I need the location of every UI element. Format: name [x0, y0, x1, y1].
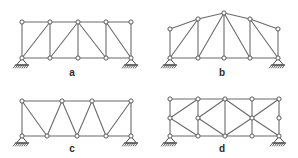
truss-joint-U4: [277, 97, 281, 101]
truss-joint-U2: [90, 99, 94, 103]
joints-a: [20, 20, 133, 60]
truss-joint-L0: [20, 134, 24, 138]
truss-member-L1-U2: [50, 22, 78, 58]
truss-joint-L3: [104, 56, 108, 60]
members-a: [22, 22, 131, 58]
truss-joint-L3: [104, 134, 108, 138]
supports-a: [13, 59, 138, 69]
truss-joint-L1: [196, 134, 200, 138]
truss-joint-L2: [222, 56, 226, 60]
truss-joint-U3: [248, 17, 252, 21]
truss-member-M0-U1: [170, 99, 198, 118]
support-hatch: [13, 65, 15, 68]
support-hatch: [122, 143, 124, 146]
truss-member-U2-U3: [224, 13, 250, 19]
truss-member-L2-M2: [225, 118, 252, 136]
panel-label-a: a: [69, 67, 75, 78]
truss-joint-U1: [196, 97, 200, 101]
joints-c: [20, 99, 133, 138]
truss-joint-U4: [129, 20, 133, 24]
truss-member-M2-U4: [252, 99, 279, 118]
truss-member-U2-L3: [78, 22, 106, 58]
support-hatch: [161, 143, 163, 146]
truss-joint-U3: [129, 99, 133, 103]
truss-joint-U0: [20, 99, 24, 103]
members-d: [170, 99, 279, 136]
truss-joint-L0: [168, 56, 172, 60]
truss-joint-M0: [168, 116, 172, 120]
truss-member-L1-U2: [198, 13, 224, 58]
truss-member-U2-L3: [92, 101, 106, 136]
truss-member-U1-U2: [198, 13, 224, 19]
truss-member-L0-U1: [170, 19, 198, 58]
truss-member-U3-L4: [106, 22, 131, 58]
truss-joint-L4: [129, 56, 133, 60]
support-hatch: [161, 65, 163, 68]
support-hatch: [270, 143, 272, 146]
support-hatch: [122, 65, 124, 68]
truss-joint-U1: [48, 20, 52, 24]
truss-member-M1-U2: [198, 99, 225, 118]
truss-joint-U0: [168, 97, 172, 101]
truss-joint-U2: [76, 20, 80, 24]
truss-member-L0-U1: [22, 22, 50, 58]
truss-joint-L3: [248, 56, 252, 60]
labels-layer: abcd: [69, 67, 225, 154]
truss-joint-U0: [20, 20, 24, 24]
truss-member-L1-U1: [47, 101, 62, 136]
panels-layer: [13, 11, 286, 146]
truss-joint-L0: [20, 56, 24, 60]
truss-joint-L1: [196, 56, 200, 60]
truss-joint-L4: [276, 56, 280, 60]
truss-joint-L1: [45, 134, 49, 138]
panel-label-b: b: [219, 67, 225, 78]
truss-joint-U1: [60, 99, 64, 103]
truss-member-U1-L2: [62, 101, 77, 136]
truss-joint-M1: [196, 116, 200, 120]
truss-joint-U4: [276, 27, 280, 31]
support-hatch: [269, 65, 271, 68]
truss-joint-L4: [129, 134, 133, 138]
truss-joint-L0: [168, 134, 172, 138]
truss-joint-L3: [250, 134, 254, 138]
truss-figure: abcd: [0, 0, 298, 158]
truss-joint-U3: [104, 20, 108, 24]
truss-joint-M3: [277, 116, 281, 120]
truss-panel-a: [13, 20, 138, 68]
truss-member-U2-M2: [225, 99, 252, 118]
truss-joint-U1: [196, 17, 200, 21]
truss-diagram-canvas: abcd: [0, 0, 298, 158]
truss-member-L3-U3: [106, 101, 131, 136]
truss-joint-U2: [222, 11, 226, 15]
truss-joint-L4: [277, 134, 281, 138]
truss-member-M2-L4: [252, 118, 279, 136]
truss-panel-c: [13, 99, 138, 146]
truss-panel-b: [161, 11, 285, 68]
truss-joint-U3: [250, 97, 254, 101]
panel-label-c: c: [69, 143, 75, 154]
truss-member-U0-L1: [22, 101, 47, 136]
panel-label-d: d: [219, 143, 225, 154]
truss-member-M0-L1: [170, 118, 198, 136]
truss-joint-U2: [223, 97, 227, 101]
truss-joint-L2: [75, 134, 79, 138]
truss-joint-M2: [250, 116, 254, 120]
truss-joint-L2: [76, 56, 80, 60]
truss-joint-L1: [48, 56, 52, 60]
truss-joint-U0: [168, 27, 172, 31]
support-hatch: [13, 143, 15, 146]
truss-joint-L2: [223, 134, 227, 138]
members-c: [22, 101, 131, 136]
truss-member-U3-L4: [250, 19, 278, 58]
truss-member-M1-L2: [198, 118, 225, 136]
truss-member-L2-U2: [77, 101, 92, 136]
members-b: [170, 13, 278, 58]
truss-member-U2-L3: [224, 13, 250, 58]
truss-panel-d: [161, 97, 286, 146]
